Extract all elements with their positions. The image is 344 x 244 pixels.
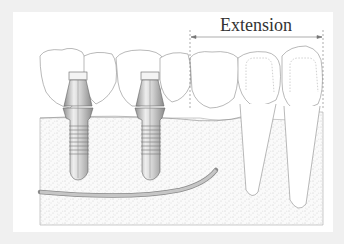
extension-label: Extension (216, 15, 296, 36)
dental-diagram (0, 0, 344, 244)
